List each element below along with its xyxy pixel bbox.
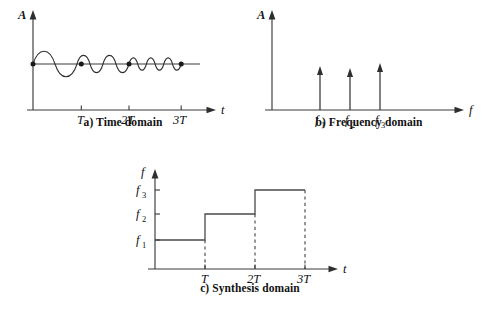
spectral-arrowhead-f1: [317, 66, 323, 75]
y-tick-label-f1-sub: 1: [142, 240, 146, 250]
y-tick-label-f2-sub: 2: [142, 214, 146, 224]
x-axis-label: f: [469, 103, 474, 117]
y-tick-label-f3-main: f: [136, 183, 141, 197]
y-axis-arrowhead: [269, 10, 276, 20]
x-axis-arrowhead: [329, 266, 339, 273]
y-axis-label: A: [256, 8, 265, 22]
panel-synthesis-domain: f t f 3 f 2 f 1 T 2T 3T c) Synthesis dom…: [100, 152, 400, 309]
waveform-marker: [79, 62, 84, 67]
x-axis-label: t: [343, 262, 347, 276]
y-axis-label: A: [17, 8, 26, 22]
y-axis-label: f: [141, 165, 146, 179]
panel-b-caption: b) Frequency domain: [246, 116, 492, 128]
waveform-marker: [31, 62, 36, 67]
x-axis-arrowhead: [207, 107, 217, 114]
panel-time-domain: A t T 2T 3T a) Time domain: [0, 0, 246, 150]
staircase-path: [155, 190, 305, 240]
spectral-arrowhead-f3: [377, 63, 383, 72]
panel-frequency-domain: A f f 1 f 2 f 3 b) Frequency domain: [246, 0, 492, 150]
waveform-marker: [127, 62, 132, 67]
panel-a-caption: a) Time domain: [0, 116, 246, 128]
spectral-arrowhead-f2: [347, 68, 353, 77]
x-axis-label: t: [221, 103, 225, 117]
y-tick-label-f1: f 1: [136, 233, 146, 250]
x-axis-arrowhead: [455, 107, 465, 114]
y-tick-label-f3-sub: 3: [142, 190, 146, 200]
panel-c-caption: c) Synthesis domain: [100, 282, 400, 294]
figure-root: A t T 2T 3T a) Time domain: [0, 0, 492, 309]
y-tick-label-f2-main: f: [136, 207, 141, 221]
y-tick-label-f2: f 2: [136, 207, 146, 224]
y-tick-label-f1-main: f: [136, 233, 141, 247]
y-axis-arrowhead: [152, 169, 159, 179]
y-tick-label-f3: f 3: [136, 183, 146, 200]
y-axis-arrowhead: [30, 10, 37, 20]
waveform-marker: [179, 62, 184, 67]
